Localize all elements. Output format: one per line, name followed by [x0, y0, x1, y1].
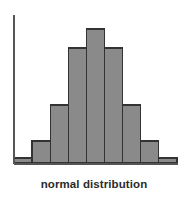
histogram-bar [105, 48, 123, 163]
histogram-bar [68, 48, 86, 163]
histogram-bar [123, 105, 141, 163]
bars-group [14, 29, 177, 163]
histogram-bar [50, 105, 68, 163]
histogram-bar [141, 141, 159, 163]
histogram-bar [32, 141, 50, 163]
histogram-bar [159, 158, 177, 163]
plot-area [0, 0, 188, 175]
chart-caption: normal distribution [0, 176, 188, 192]
histogram-bar [86, 29, 104, 163]
histogram-svg [0, 0, 188, 175]
histogram-bar [14, 158, 32, 163]
normal-distribution-chart: normal distribution [0, 0, 188, 201]
